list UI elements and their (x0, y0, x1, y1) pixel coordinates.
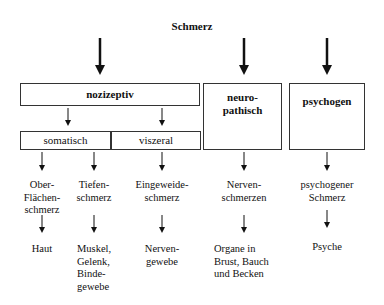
label-nervengewebe: Nerven- gewebe (127, 243, 197, 268)
label-neuro-line2: pathisch (204, 104, 281, 117)
label-muskel-gelenk-bindegewebe: Muskel, Gelenk, Binde- gewebe (77, 243, 127, 293)
text-line: Gelenk, (77, 256, 127, 269)
text-line: Muskel, (77, 243, 127, 256)
text-line: schmerz (127, 192, 197, 205)
label-eingeweideschmerz: Eingeweide- schmerz (127, 179, 197, 204)
label-nozizeptiv: nozizeptiv (21, 88, 199, 101)
label-somatisch: somatisch (21, 134, 110, 147)
text-line: Nerven- (127, 243, 197, 256)
box-nozizeptiv: nozizeptiv (20, 83, 200, 106)
text-line: Ober- (17, 179, 67, 192)
label-haut: Haut (17, 243, 67, 256)
text-line: schmerzen (209, 192, 279, 205)
text-line: schmerz (68, 192, 120, 205)
label-psyche: Psyche (292, 241, 362, 254)
box-viszeral: viszeral (111, 131, 201, 150)
label-psychogener-schmerz: psychogener Schmerz (292, 179, 362, 204)
text-line: Schmerz (292, 192, 362, 205)
text-line: Eingeweide- (127, 179, 197, 192)
text-line: Psyche (292, 241, 362, 254)
text-line: Binde- (77, 268, 127, 281)
text-line: Tiefen- (68, 179, 120, 192)
label-oberflaechenschmerz: Ober- Flächen- schmerz (17, 179, 67, 217)
text-line: gewebe (77, 281, 127, 294)
label-organe: Organe in Brust, Bauch und Becken (214, 243, 294, 281)
text-line: Nerven- (209, 179, 279, 192)
main-arrows (100, 38, 327, 70)
text-line: und Becken (214, 268, 294, 281)
text-line: gewebe (127, 256, 197, 269)
text-line: Organe in (214, 243, 294, 256)
label-nervenschmerzen: Nerven- schmerzen (209, 179, 279, 204)
small-arrows (42, 108, 327, 230)
box-neuropathisch: neuro- pathisch (203, 83, 282, 150)
label-neuro-line1: neuro- (204, 91, 281, 104)
text-line: schmerz (17, 204, 67, 217)
text-line: Brust, Bauch (214, 256, 294, 269)
label-psychogen: psychogen (290, 95, 364, 108)
text-line: psychogener (292, 179, 362, 192)
label-viszeral: viszeral (112, 134, 200, 147)
label-tiefenschmerz: Tiefen- schmerz (68, 179, 120, 204)
box-somatisch: somatisch (20, 131, 111, 150)
box-psychogen: psychogen (289, 83, 365, 150)
text-line: Haut (17, 243, 67, 256)
text-line: Flächen- (17, 192, 67, 205)
